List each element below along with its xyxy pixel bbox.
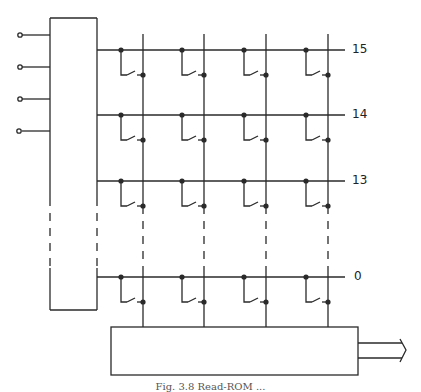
- figure-caption: Fig. 3.8 Read-ROM ...: [0, 381, 421, 392]
- key-switches: [118, 47, 330, 304]
- row-label-15: 15: [352, 42, 367, 56]
- row-label-0: 0: [354, 269, 362, 283]
- row-label-13: 13: [352, 173, 367, 187]
- decoder-block: [50, 18, 97, 310]
- row-lines: [97, 50, 345, 277]
- row-label-14: 14: [352, 107, 367, 121]
- encoder-block: [111, 327, 406, 375]
- input-lines: [17, 33, 50, 133]
